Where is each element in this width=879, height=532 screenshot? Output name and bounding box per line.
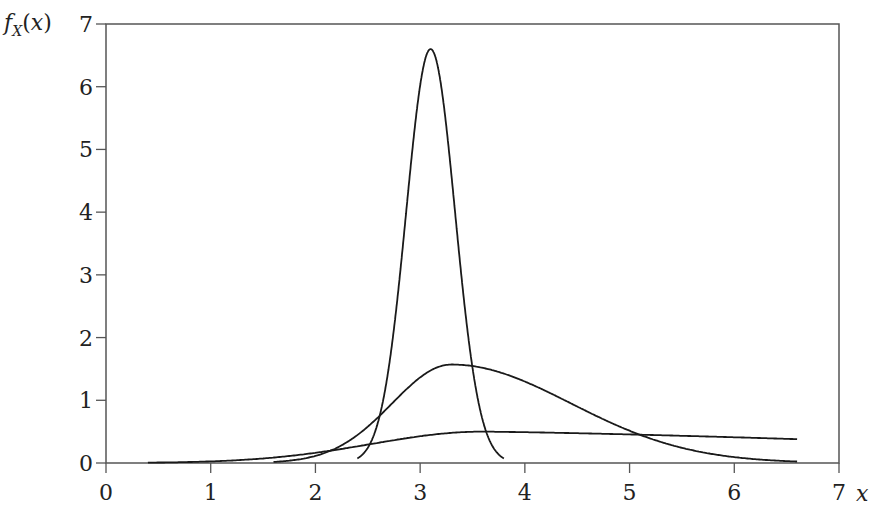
curves bbox=[148, 49, 797, 463]
curve-narrow-density bbox=[357, 49, 504, 458]
y-axis-label: fX(x) bbox=[2, 10, 52, 39]
y-tick-label: 2 bbox=[79, 326, 93, 351]
x-axis-label: x bbox=[856, 481, 869, 506]
x-tick-label: 4 bbox=[518, 480, 532, 505]
y-tick-label: 7 bbox=[79, 12, 93, 37]
x-tick-label: 1 bbox=[204, 480, 218, 505]
density-chart: 0123456701234567 fX(x) x bbox=[0, 0, 879, 532]
plot-frame bbox=[106, 24, 839, 463]
x-tick-label: 2 bbox=[308, 480, 322, 505]
axis-ticks: 0123456701234567 bbox=[79, 12, 846, 505]
y-tick-label: 4 bbox=[79, 200, 93, 225]
x-tick-label: 7 bbox=[832, 480, 846, 505]
y-tick-label: 3 bbox=[79, 263, 93, 288]
curve-wide-density bbox=[148, 432, 797, 463]
x-tick-label: 0 bbox=[99, 480, 113, 505]
y-tick-label: 6 bbox=[79, 75, 93, 100]
y-tick-label: 5 bbox=[79, 137, 93, 162]
x-tick-label: 5 bbox=[623, 480, 637, 505]
y-tick-label: 1 bbox=[79, 388, 93, 413]
y-tick-label: 0 bbox=[79, 451, 93, 476]
x-tick-label: 3 bbox=[413, 480, 427, 505]
x-tick-label: 6 bbox=[727, 480, 741, 505]
